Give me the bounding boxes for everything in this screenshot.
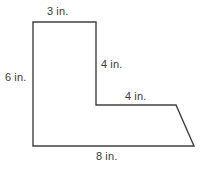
polygon-drawing: [0, 0, 201, 169]
dimension-label-bottom: 8 in.: [96, 150, 117, 163]
dimension-label-right-vertical: 4 in.: [101, 58, 122, 71]
dimension-label-ledge: 4 in.: [125, 90, 146, 103]
dimension-label-left: 6 in.: [5, 71, 26, 84]
geometry-figure: 3 in. 6 in. 4 in. 4 in. 8 in.: [0, 0, 201, 169]
l-shaped-polygon: [33, 22, 194, 146]
dimension-label-top: 3 in.: [47, 5, 68, 18]
